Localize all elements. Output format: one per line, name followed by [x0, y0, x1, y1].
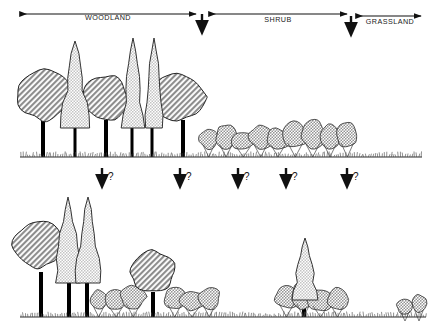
conifer-tree-1-trunk [74, 126, 77, 157]
transition-arrow-layer: ????? [102, 168, 359, 185]
conifer-tree-b2-trunk [85, 280, 89, 317]
broad-tree-3-trunk [181, 120, 185, 157]
shrub-band-top-lump-8 [320, 124, 339, 149]
transition-arrow-4-question-mark: ? [292, 171, 298, 182]
broad-tree-1-trunk [41, 120, 45, 157]
panel-bottom-ground [20, 311, 426, 317]
broad-tree-b1-trunk [39, 272, 43, 317]
diagram-canvas: WOODLANDSHRUBGRASSLAND ????? [0, 0, 436, 336]
vegetation-gradient-diagram: WOODLANDSHRUBGRASSLAND ????? [0, 0, 436, 336]
conifer-tree-3-trunk [151, 126, 154, 157]
shrub-group-b4-lump-1 [396, 299, 412, 314]
shrub-group-b1 [90, 285, 147, 317]
broad-tree-2-canopy [83, 76, 129, 121]
zone-axis-layer [20, 14, 421, 16]
zone-label-shrub: SHRUB [264, 15, 291, 24]
zone-label-woodland: WOODLAND [85, 13, 131, 22]
transition-arrow-1-question-mark: ? [108, 171, 114, 182]
conifer-tree-b3-crown [292, 238, 318, 300]
projected-vegetation-profile [12, 197, 427, 321]
shrub-band-top [198, 119, 356, 157]
shrub-group-b3-lump-4 [327, 287, 348, 309]
transition-arrow-2-question-mark: ? [186, 171, 192, 182]
current-vegetation-profile [17, 38, 422, 157]
zone-label-layer: WOODLANDSHRUBGRASSLAND [85, 13, 414, 26]
transition-arrow-5-question-mark: ? [353, 171, 359, 182]
panel-top-ground [20, 151, 422, 157]
broad-tree-2-trunk [104, 120, 108, 157]
zone-label-grassland: GRASSLAND [366, 17, 414, 26]
transition-arrow-3-question-mark: ? [244, 171, 250, 182]
conifer-tree-2-crown [121, 38, 145, 128]
shrub-band-top-lump-9 [337, 122, 357, 146]
broad-tree-b2-canopy [130, 250, 175, 291]
conifer-tree-b1-trunk [67, 280, 71, 317]
shrub-band-top-lump-1 [198, 129, 218, 149]
conifer-tree-b2-crown [75, 197, 101, 283]
conifer-tree-2-trunk [131, 126, 134, 157]
